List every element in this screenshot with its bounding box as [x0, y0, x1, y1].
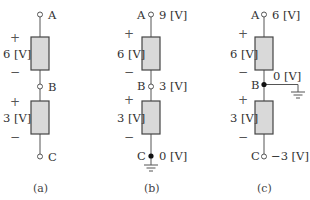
minus-sign: −	[238, 65, 248, 79]
terminal-a-icon	[149, 12, 154, 17]
plus-sign: +	[238, 27, 248, 41]
node-dot-icon	[261, 82, 266, 87]
circuit-c: A 6 [V] + 6 [V] − 0 [V] B + 3 [V] − C −3…	[230, 8, 309, 195]
element-3v-label: 3 [V]	[3, 111, 31, 125]
minus-sign: −	[124, 130, 134, 144]
plus-sign: +	[124, 93, 134, 107]
caption-b: (b)	[144, 182, 160, 195]
element-6v-label: 6 [V]	[117, 47, 145, 61]
terminal-c-icon	[38, 154, 43, 159]
terminal-b-icon	[38, 84, 43, 89]
ground-icon	[291, 92, 305, 98]
node-b-label: B	[137, 79, 145, 93]
node-b-label: B	[48, 80, 56, 94]
node-dot-icon	[148, 153, 153, 158]
circuit-b: A 9 [V] + 6 [V] − B 3 [V] + 3 [V] − C 0 …	[117, 8, 187, 195]
caption-c: (c)	[257, 182, 272, 195]
ground-icon	[144, 165, 158, 171]
node-c-voltage: −3 [V]	[271, 149, 309, 163]
plus-sign: +	[124, 27, 134, 41]
node-c-label: C	[48, 150, 57, 164]
element-6v	[31, 37, 49, 70]
node-a-label: A	[136, 8, 146, 22]
minus-sign: −	[10, 65, 20, 79]
terminal-a-icon	[262, 12, 267, 17]
element-3v	[31, 101, 49, 134]
element-3v-label: 3 [V]	[117, 111, 145, 125]
minus-sign: −	[238, 130, 248, 144]
node-b-voltage: 0 [V]	[273, 69, 301, 83]
circuit-diagram: A + 6 [V] − B + 3 [V] − C (a) A 9 [V] + …	[0, 0, 310, 200]
node-a-voltage: 9 [V]	[159, 8, 187, 22]
terminal-b-icon	[149, 84, 154, 89]
element-6v-label: 6 [V]	[3, 47, 31, 61]
node-b-label: B	[251, 78, 259, 92]
terminal-c-icon	[262, 154, 267, 159]
minus-sign: −	[10, 130, 20, 144]
caption-a: (a)	[33, 182, 48, 195]
node-a-voltage: 6 [V]	[272, 8, 300, 22]
node-b-voltage: 3 [V]	[159, 79, 187, 93]
terminal-a-icon	[38, 12, 43, 17]
plus-sign: +	[238, 93, 248, 107]
node-c-voltage: 0 [V]	[159, 149, 187, 163]
node-c-label: C	[251, 149, 260, 163]
plus-sign: +	[10, 95, 20, 109]
element-3v-label: 3 [V]	[230, 111, 258, 125]
node-c-label: C	[137, 149, 146, 163]
node-a-label: A	[250, 8, 260, 22]
minus-sign: −	[124, 65, 134, 79]
element-6v-label: 6 [V]	[230, 47, 258, 61]
node-a-label: A	[47, 8, 57, 22]
plus-sign: +	[10, 31, 20, 45]
circuit-a: A + 6 [V] − B + 3 [V] − C (a)	[3, 8, 57, 195]
